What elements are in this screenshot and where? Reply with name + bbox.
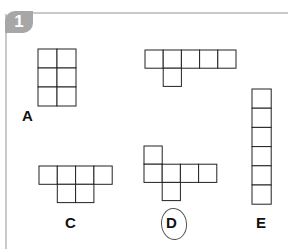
net-shapes <box>0 0 288 249</box>
grid-cell <box>180 164 198 182</box>
grid-cell <box>163 68 181 86</box>
grid-cell <box>162 164 180 182</box>
grid-cell <box>252 166 271 185</box>
grid-cell <box>252 89 271 108</box>
grid-cell <box>200 50 218 68</box>
grid-cell <box>57 87 76 106</box>
net-shape-e[interactable] <box>252 89 271 204</box>
grid-cell <box>199 164 217 182</box>
grid-cell <box>144 164 162 182</box>
grid-cell <box>181 50 199 68</box>
grid-cell <box>38 68 57 87</box>
grid-cell <box>218 50 236 68</box>
grid-cell <box>57 184 75 202</box>
grid-cell <box>76 166 94 184</box>
grid-cell <box>162 182 180 200</box>
grid-cell <box>252 147 271 166</box>
grid-cell <box>145 50 163 68</box>
net-shape-a[interactable] <box>38 49 76 106</box>
option-label-a[interactable]: A <box>22 107 33 124</box>
grid-cell <box>252 127 271 146</box>
grid-cell <box>252 108 271 127</box>
grid-cell <box>144 146 162 164</box>
grid-cell <box>252 185 271 204</box>
net-shape-b[interactable] <box>145 50 236 86</box>
grid-cell <box>57 49 76 68</box>
option-label-c[interactable]: C <box>65 214 76 231</box>
grid-cell <box>39 166 57 184</box>
grid-cell <box>57 166 75 184</box>
grid-cell <box>57 68 76 87</box>
net-shape-c[interactable] <box>39 166 112 203</box>
grid-cell <box>38 87 57 106</box>
grid-cell <box>163 50 181 68</box>
grid-cell <box>94 166 112 184</box>
option-label-e[interactable]: E <box>256 214 266 231</box>
net-shape-d[interactable] <box>144 146 217 201</box>
grid-cell <box>38 49 57 68</box>
grid-cell <box>76 184 94 202</box>
